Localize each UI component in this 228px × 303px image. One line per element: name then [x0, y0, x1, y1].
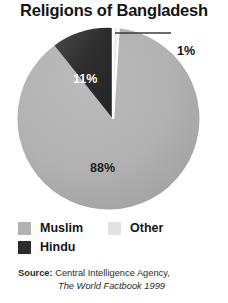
legend-swatch-other-icon	[108, 222, 121, 235]
legend-item-hindu: Hindu	[18, 240, 75, 254]
legend-label-other: Other	[130, 221, 163, 235]
chart-title: Religions of Bangladesh	[0, 1, 228, 20]
legend-row-1: Muslim Other	[18, 221, 224, 240]
legend-item-muslim: Muslim	[18, 221, 83, 235]
source-line-2: The World Factbook 1999	[18, 280, 218, 293]
chart-legend: Muslim Other Hindu	[18, 221, 224, 259]
slice-value-hindu: 11%	[73, 72, 97, 86]
legend-label-muslim: Muslim	[40, 221, 83, 235]
source-label: Source:	[18, 268, 53, 278]
legend-item-other: Other	[108, 221, 163, 235]
slice-value-muslim: 88%	[90, 161, 115, 175]
legend-swatch-hindu-icon	[18, 241, 31, 254]
legend-row-2: Hindu	[18, 240, 224, 259]
pie-plot-area: 88% 11% 1%	[0, 22, 228, 214]
legend-swatch-muslim-icon	[18, 222, 31, 235]
slice-value-other: 1%	[177, 44, 195, 58]
source-note: Source: Central Intelligence Agency, The…	[18, 267, 218, 292]
pie-chart-figure: Religions of Bangladesh	[0, 0, 228, 303]
legend-label-hindu: Hindu	[40, 240, 75, 254]
source-line-1: Central Intelligence Agency,	[55, 268, 170, 278]
